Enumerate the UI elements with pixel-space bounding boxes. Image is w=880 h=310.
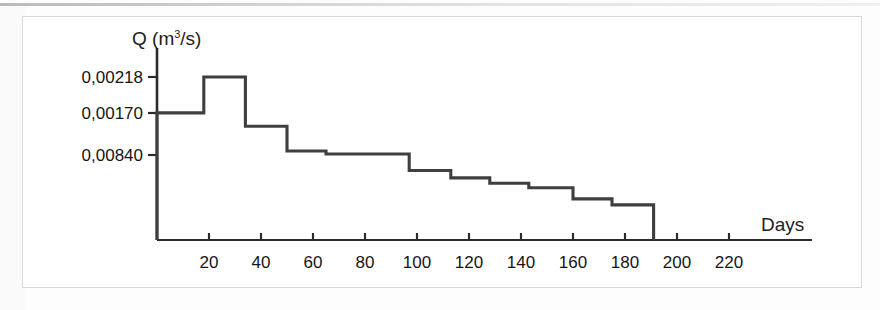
- figure-page: Q (m3/s) Days 0,002180,001700,00840 2040…: [0, 0, 880, 310]
- x-tick-label: 100: [387, 253, 447, 273]
- x-tick-label: 180: [595, 253, 655, 273]
- x-tick-label: 140: [491, 253, 551, 273]
- x-tick-label: 120: [439, 253, 499, 273]
- x-axis-title: Days: [761, 215, 804, 234]
- x-tick-label: 20: [179, 253, 239, 273]
- x-tick-label: 80: [335, 253, 395, 273]
- y-axis-title: Q (m3/s): [132, 29, 201, 48]
- x-tick-label: 220: [699, 253, 759, 273]
- x-tick-label: 200: [647, 253, 707, 273]
- x-tick-label: 160: [543, 253, 603, 273]
- y-tick-label: 0,00840: [82, 146, 143, 166]
- axes-group: [148, 48, 812, 241]
- data-step-curve: [157, 77, 654, 240]
- y-tick-label: 0,00218: [82, 68, 143, 88]
- x-tick-label: 60: [283, 253, 343, 273]
- y-tick-label: 0,00170: [82, 104, 143, 124]
- x-tick-label: 40: [231, 253, 291, 273]
